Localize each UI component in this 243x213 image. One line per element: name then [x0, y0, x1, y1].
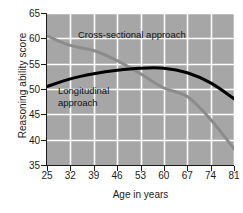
annotation-cross-sectional-approach: Cross-sectional approach — [78, 29, 186, 41]
x-axis-title: Age in years — [47, 189, 234, 200]
x-tick-mark — [234, 166, 235, 171]
reasoning-ability-line-chart: Reasoning ability score 35404550556065 C… — [0, 0, 243, 213]
y-tick-mark — [41, 165, 46, 166]
y-tick-label: 50 — [18, 84, 40, 95]
y-tick-label: 40 — [18, 134, 40, 145]
x-tick-mark — [70, 166, 71, 171]
y-tick-mark — [41, 38, 46, 39]
x-tick-mark — [94, 166, 95, 171]
x-tick-mark — [187, 166, 188, 171]
x-tick-mark — [47, 166, 48, 171]
x-axis-tick-labels: 253239465360677481 — [0, 170, 243, 184]
x-tick-mark — [141, 166, 142, 171]
x-tick-mark — [117, 166, 118, 171]
y-tick-mark — [41, 140, 46, 141]
y-tick-label: 60 — [18, 33, 40, 44]
y-tick-mark — [41, 13, 46, 14]
x-tick-label: 81 — [219, 170, 243, 181]
y-tick-mark — [41, 64, 46, 65]
y-tick-label: 55 — [18, 58, 40, 69]
annotation-longitudinal-approach: Longitudinal approach — [58, 85, 109, 108]
y-tick-mark — [41, 114, 46, 115]
y-tick-label: 65 — [18, 8, 40, 19]
y-tick-label: 35 — [18, 160, 40, 171]
x-tick-mark — [211, 166, 212, 171]
y-tick-mark — [41, 89, 46, 90]
x-tick-mark — [164, 166, 165, 171]
y-tick-label: 45 — [18, 109, 40, 120]
